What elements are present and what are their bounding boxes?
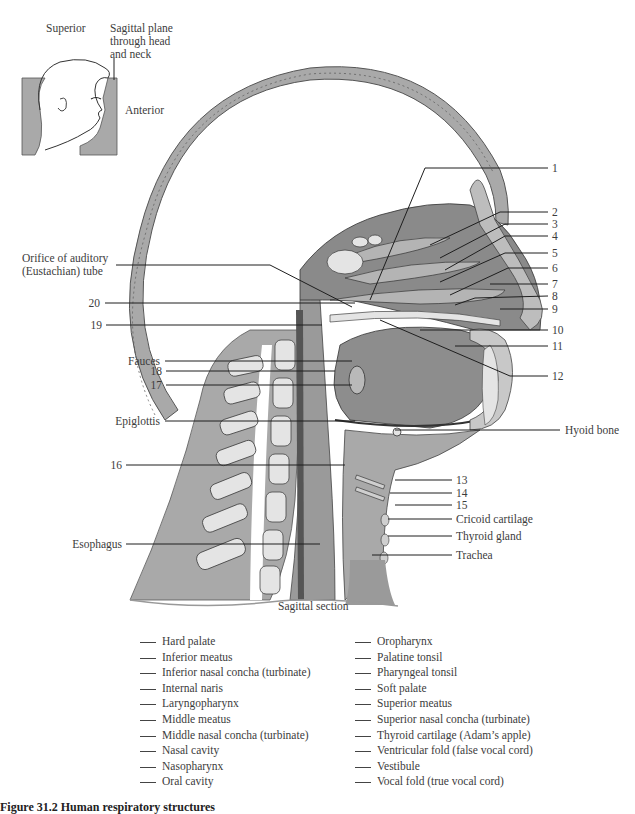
key-item: Superior nasal concha (turbinate) xyxy=(355,712,533,728)
sagittal-plane-label-line2: through head xyxy=(110,35,170,48)
sagittal-plane-label-line3: and neck xyxy=(110,48,151,61)
key-item: Soft palate xyxy=(355,681,533,697)
key-item: Inferior nasal concha (turbinate) xyxy=(140,665,310,681)
answer-blank[interactable] xyxy=(355,642,371,643)
key-item: Palatine tonsil xyxy=(355,650,533,666)
label-9: 9 xyxy=(552,303,558,316)
key-item: Laryngopharynx xyxy=(140,696,310,712)
answer-blank[interactable] xyxy=(140,736,156,737)
label-20: 20 xyxy=(70,297,100,310)
answer-blank[interactable] xyxy=(355,720,371,721)
answer-blank[interactable] xyxy=(355,704,371,705)
key-item: Thyroid cartilage (Adam’s apple) xyxy=(355,728,533,744)
label-8: 8 xyxy=(552,290,558,303)
label-13: 13 xyxy=(456,474,468,487)
answer-blank[interactable] xyxy=(140,720,156,721)
superior-label: Superior xyxy=(46,22,86,35)
label-4: 4 xyxy=(552,230,558,243)
answer-blank[interactable] xyxy=(140,673,156,674)
label-12: 12 xyxy=(552,370,564,383)
key-item: Inferior meatus xyxy=(140,650,310,666)
label-10: 10 xyxy=(552,324,564,337)
answer-key-right-column: Oropharynx Palatine tonsil Pharyngeal to… xyxy=(355,634,533,790)
anterior-label: Anterior xyxy=(125,104,164,117)
sagittal-plane-label-line1: Sagittal plane xyxy=(110,22,173,35)
figure-caption: Figure 31.2 Human respiratory structures xyxy=(0,800,215,814)
answer-blank[interactable] xyxy=(355,767,371,768)
answer-blank[interactable] xyxy=(355,658,371,659)
answer-blank[interactable] xyxy=(355,782,371,783)
label-cricoid-cartilage: Cricoid cartilage xyxy=(456,513,533,526)
answer-blank[interactable] xyxy=(140,642,156,643)
label-orifice-auditory-tube-line1: Orifice of auditory xyxy=(22,252,108,265)
label-1: 1 xyxy=(552,162,558,175)
label-19: 19 xyxy=(70,319,102,332)
answer-blank[interactable] xyxy=(140,689,156,690)
answer-blank[interactable] xyxy=(355,751,371,752)
label-16: 16 xyxy=(90,459,122,472)
label-epiglottis: Epiglottis xyxy=(90,415,160,428)
sagittal-section-illustration xyxy=(0,0,635,814)
palatine-tonsil xyxy=(349,366,365,394)
answer-blank[interactable] xyxy=(355,673,371,674)
label-18: 18 xyxy=(130,365,162,378)
answer-blank[interactable] xyxy=(140,751,156,752)
label-esophagus: Esophagus xyxy=(40,538,122,551)
key-item: Pharyngeal tonsil xyxy=(355,665,533,681)
key-item: Vocal fold (true vocal cord) xyxy=(355,774,533,790)
key-item: Nasal cavity xyxy=(140,743,310,759)
key-item: Internal naris xyxy=(140,681,310,697)
label-hyoid-bone: Hyoid bone xyxy=(565,424,619,437)
label-trachea: Trachea xyxy=(456,549,493,562)
answer-blank[interactable] xyxy=(140,782,156,783)
key-item: Middle meatus xyxy=(140,712,310,728)
key-item: Oropharynx xyxy=(355,634,533,650)
answer-blank[interactable] xyxy=(140,658,156,659)
key-item: Middle nasal concha (turbinate) xyxy=(140,728,310,744)
answer-blank[interactable] xyxy=(355,689,371,690)
label-thyroid-gland: Thyroid gland xyxy=(456,530,521,543)
answer-blank[interactable] xyxy=(355,736,371,737)
label-17: 17 xyxy=(130,379,162,392)
answer-blank[interactable] xyxy=(140,704,156,705)
label-orifice-auditory-tube-line2: (Eustachian) tube xyxy=(22,265,103,278)
key-item: Oral cavity xyxy=(140,774,310,790)
key-item: Ventricular fold (false vocal cord) xyxy=(355,743,533,759)
label-15: 15 xyxy=(456,499,468,512)
label-11: 11 xyxy=(552,340,563,353)
inset-head-diagram xyxy=(22,58,117,155)
key-item: Nasopharynx xyxy=(140,759,310,775)
answer-blank[interactable] xyxy=(140,767,156,768)
key-item: Vestibule xyxy=(355,759,533,775)
sagittal-section-label: Sagittal section xyxy=(278,600,349,613)
hyoid xyxy=(393,428,401,436)
answer-key-left-column: Hard palate Inferior meatus Inferior nas… xyxy=(140,634,310,790)
label-6: 6 xyxy=(552,262,558,275)
key-item: Hard palate xyxy=(140,634,310,650)
key-item: Superior meatus xyxy=(355,696,533,712)
label-5: 5 xyxy=(552,247,558,260)
